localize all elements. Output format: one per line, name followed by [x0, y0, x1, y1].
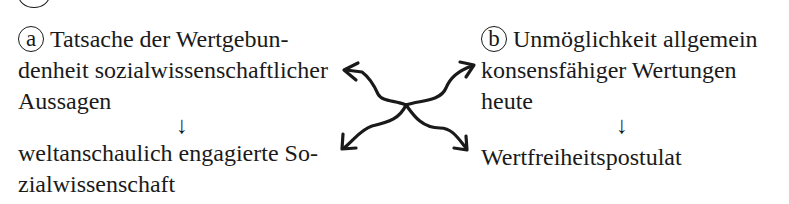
crossed-arrows-icon [0, 0, 789, 204]
